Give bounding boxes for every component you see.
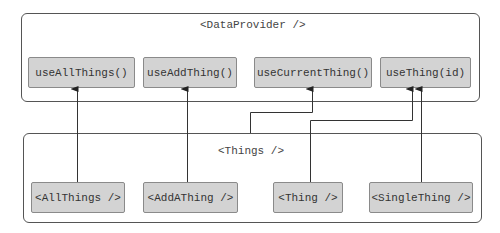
edge-things [251, 89, 313, 133]
connector-lines [0, 0, 500, 233]
edge-thing [311, 89, 413, 182]
